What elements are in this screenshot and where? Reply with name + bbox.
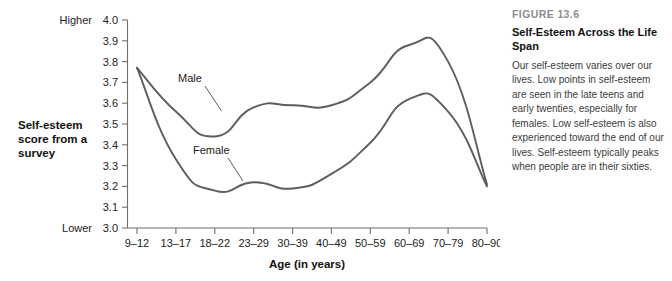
caption-title: Self-Esteem Across the Life Span — [512, 25, 664, 54]
x-tick-label-23-29: 23–29 — [238, 237, 269, 249]
chart-panel: 4.0 3.9 3.8 3.7 3.6 3.5 3.4 3.3 3.2 3.1 … — [0, 0, 500, 281]
x-tick-label-18-22: 18–22 — [200, 237, 231, 249]
series-label-male: Male — [178, 72, 202, 84]
y-axis-title-line-2: score from a — [18, 133, 88, 145]
y-tick-label-3-3: 3.3 — [103, 160, 118, 172]
self-esteem-line-chart: 4.0 3.9 3.8 3.7 3.6 3.5 3.4 3.3 3.2 3.1 … — [0, 0, 500, 281]
series-line-female — [137, 68, 487, 192]
series-label-female: Female — [193, 144, 230, 156]
x-tick-marks — [137, 228, 487, 234]
caption-body: Our self-esteem varies over our lives. L… — [512, 59, 664, 175]
y-axis-lower-anchor: Lower — [62, 222, 92, 234]
y-tick-label-3-0: 3.0 — [103, 222, 118, 234]
x-tick-label-9-12: 9–12 — [125, 237, 149, 249]
y-axis-higher-anchor: Higher — [60, 14, 93, 26]
figure-caption-panel: FIGURE 13.6 Self-Esteem Across the Life … — [512, 8, 664, 175]
y-tick-label-3-6: 3.6 — [103, 97, 118, 109]
x-axis-title: Age (in years) — [269, 258, 345, 270]
y-tick-label-3-5: 3.5 — [103, 118, 118, 130]
x-tick-label-50-59: 50–59 — [355, 237, 386, 249]
y-tick-label-3-7: 3.7 — [103, 76, 118, 88]
y-axis-title-line-3: survey — [18, 147, 56, 159]
female-label-leader-line — [228, 158, 243, 181]
x-tick-label-30-39: 30–39 — [277, 237, 308, 249]
x-tick-label-80-90: 80–90 — [472, 237, 500, 249]
y-tick-label-3-8: 3.8 — [103, 56, 118, 68]
y-axis-title-line-1: Self-esteem — [18, 119, 83, 131]
y-tick-label-3-2: 3.2 — [103, 180, 118, 192]
x-tick-label-40-49: 40–49 — [316, 237, 347, 249]
male-label-leader-line — [205, 86, 222, 111]
x-tick-label-13-17: 13–17 — [161, 237, 192, 249]
y-tick-label-3-4: 3.4 — [103, 139, 118, 151]
y-tick-label-4-0: 4.0 — [103, 14, 118, 26]
x-tick-label-60-69: 60–69 — [394, 237, 425, 249]
y-tick-label-3-9: 3.9 — [103, 35, 118, 47]
figure-container: 4.0 3.9 3.8 3.7 3.6 3.5 3.4 3.3 3.2 3.1 … — [0, 0, 672, 281]
series-line-male — [137, 38, 487, 185]
caption-figure-number: FIGURE 13.6 — [512, 8, 664, 21]
y-tick-marks — [122, 20, 128, 228]
y-tick-label-3-1: 3.1 — [103, 201, 118, 213]
x-tick-label-70-79: 70–79 — [433, 237, 464, 249]
